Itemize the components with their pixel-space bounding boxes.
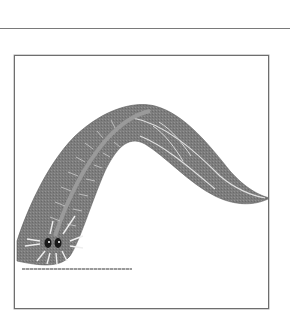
figure-frame [14, 55, 269, 309]
worm-body [17, 105, 268, 265]
top-rule [0, 28, 290, 29]
figure-caption [22, 268, 132, 270]
eye-left [45, 238, 52, 248]
flatworm-figure [15, 56, 268, 308]
eye-right [55, 238, 62, 248]
